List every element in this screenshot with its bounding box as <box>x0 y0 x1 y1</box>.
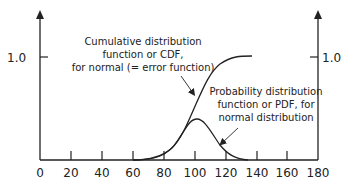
right-axis-arrow-icon <box>314 10 322 19</box>
svg-text:140: 140 <box>246 166 269 180</box>
svg-text:Cumulative distribution: Cumulative distribution <box>84 36 201 47</box>
svg-text:80: 80 <box>156 166 171 180</box>
svg-text:20: 20 <box>63 166 78 180</box>
svg-text:for normal (= error function): for normal (= error function) <box>72 62 215 73</box>
cdf-pointer-arrow <box>181 76 193 93</box>
svg-text:120: 120 <box>215 166 238 180</box>
svg-text:Probability distribution: Probability distribution <box>209 86 322 97</box>
pdf-curve <box>133 119 248 160</box>
svg-text:40: 40 <box>94 166 109 180</box>
pdf-pointer-arrow <box>222 128 238 143</box>
svg-text:normal distribution: normal distribution <box>218 112 313 123</box>
right-y-tick-label: 1.0 <box>322 51 341 65</box>
distribution-diagram: 1.0 1.0 0 20 40 60 80 100 120 140 160 18… <box>0 0 353 184</box>
svg-text:0: 0 <box>36 166 44 180</box>
svg-text:60: 60 <box>125 166 140 180</box>
left-y-tick-label: 1.0 <box>7 51 26 65</box>
x-ticks <box>71 151 287 160</box>
cdf-annotation: Cumulative distribution function or CDF,… <box>72 36 215 73</box>
left-axis-arrow-icon <box>36 10 44 19</box>
svg-text:180: 180 <box>307 166 330 180</box>
svg-text:160: 160 <box>276 166 299 180</box>
x-tick-labels: 0 20 40 60 80 100 120 140 160 180 <box>36 166 329 180</box>
pdf-annotation: Probability distribution function or PDF… <box>209 86 322 123</box>
svg-text:function or PDF, for: function or PDF, for <box>217 99 315 110</box>
svg-text:function or CDF,: function or CDF, <box>102 49 183 60</box>
svg-text:100: 100 <box>184 166 207 180</box>
